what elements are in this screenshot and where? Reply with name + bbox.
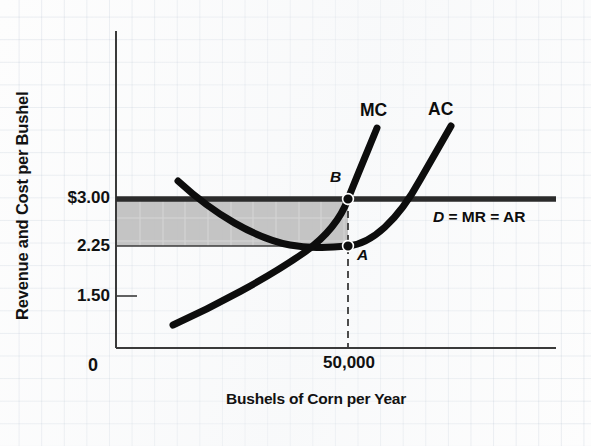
x-tick-label-50000: 50,000 [298,353,400,373]
marginal-cost-label: MC [360,100,387,121]
demand-label-rest: = MR = AR [444,208,525,225]
demand-curve-label: D = MR = AR [433,208,525,226]
y-tick-label-1-50: 1.50 [52,286,110,306]
y-axis-title: Revenue and Cost per Bushel [13,92,32,320]
point-b-marker [343,194,354,205]
y-tick-label-2-25: 2.25 [52,236,110,256]
demand-label-d: D [433,208,444,225]
point-a-label: A [357,246,368,264]
point-a-marker [343,241,354,252]
point-b-label: B [330,168,341,186]
x-axis-title: Bushels of Corn per Year [226,390,406,408]
y-tick-label-3-00: $3.00 [52,188,110,208]
figure-canvas: Revenue and Cost per Bushel Bushels of C… [0,0,591,446]
origin-label: 0 [78,355,108,376]
average-cost-label: AC [428,99,453,120]
